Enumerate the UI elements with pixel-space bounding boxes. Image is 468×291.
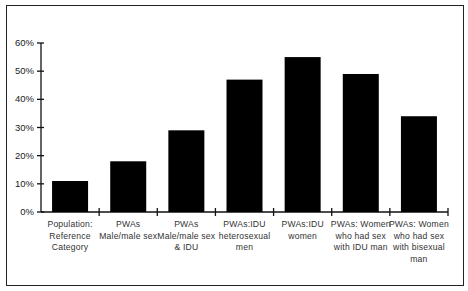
x-category-label: PWAs:IDUheterosexualmen bbox=[214, 219, 276, 254]
bar bbox=[52, 181, 88, 212]
x-category-label: Population:ReferenceCategory bbox=[39, 219, 101, 254]
y-tick-label: 20% bbox=[0, 151, 34, 161]
x-category-label: PWAs:IDUwomen bbox=[272, 219, 334, 242]
bar bbox=[168, 130, 204, 212]
bar bbox=[285, 57, 321, 212]
bar bbox=[343, 74, 379, 212]
y-tick-label: 10% bbox=[0, 179, 34, 189]
x-category-label: PWAs: Womenwho had sexwith bisexualman bbox=[388, 219, 450, 265]
bar bbox=[401, 116, 437, 212]
y-tick-label: 60% bbox=[0, 38, 34, 48]
bar bbox=[110, 161, 146, 212]
x-category-label: PWAs: Womenwho had sexwith IDU man bbox=[330, 219, 392, 254]
bar bbox=[227, 80, 263, 212]
y-tick-label: 30% bbox=[0, 123, 34, 133]
y-tick-label: 0% bbox=[0, 207, 34, 217]
y-tick-label: 40% bbox=[0, 94, 34, 104]
y-tick-label: 50% bbox=[0, 66, 34, 76]
x-category-label: PWAsMale/male sex bbox=[97, 219, 159, 242]
x-category-label: PWAsMale/male sex& IDU bbox=[155, 219, 217, 254]
